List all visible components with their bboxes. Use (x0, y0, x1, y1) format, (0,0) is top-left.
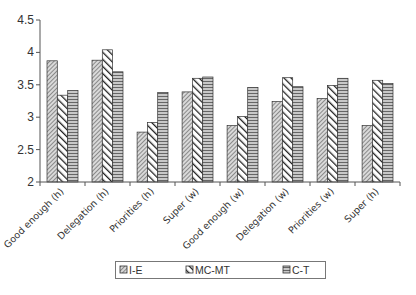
bar-c-t (68, 91, 78, 182)
bar-i-e (182, 92, 192, 182)
bar-mc-mt (282, 78, 292, 182)
legend-label: I-E (129, 264, 142, 276)
bar-mc-mt (192, 78, 202, 182)
y-axis: 22.533.544.5 (17, 13, 40, 189)
bar-mc-mt (102, 50, 112, 182)
y-tick-label: 3 (27, 110, 34, 124)
x-category-label: Priorities (h) (107, 186, 156, 235)
x-axis: Good enough (h)Delegation (h)Priorities … (1, 182, 400, 251)
legend-label: C-T (292, 264, 310, 276)
bar-group (317, 78, 348, 182)
bar-groups (47, 50, 393, 182)
bar-mc-mt (57, 95, 67, 182)
bar-c-t (293, 87, 303, 182)
bar-group (362, 80, 393, 182)
bar-chart: 22.533.544.5 Good enough (h)Delegation (… (0, 0, 416, 295)
bar-i-e (227, 126, 237, 182)
bar-c-t (158, 93, 168, 182)
bar-i-e (47, 61, 57, 182)
bar-c-t (113, 72, 123, 182)
bar-group (47, 61, 78, 182)
y-tick-label: 2.5 (17, 143, 34, 157)
y-tick-label: 4.5 (17, 13, 34, 27)
bar-c-t (248, 87, 258, 182)
bar-group (182, 77, 213, 182)
legend-swatch-icon (120, 266, 127, 273)
x-category-label: Good enough (h) (1, 186, 66, 251)
x-category-label: Super (w) (161, 186, 201, 226)
y-tick-label: 3.5 (17, 78, 34, 92)
bar-group (92, 50, 123, 182)
bar-mc-mt (237, 117, 247, 182)
bar-group (272, 78, 303, 182)
bar-c-t (203, 77, 213, 182)
bar-mc-mt (372, 80, 382, 182)
bar-i-e (137, 132, 147, 182)
x-category-label: Super (h) (342, 186, 381, 225)
bar-i-e (317, 98, 327, 182)
x-category-label: Priorities (w) (286, 186, 336, 236)
legend-label: MC-MT (195, 264, 231, 276)
legend-swatch-icon (186, 266, 193, 273)
legend: I-EMC-MTC-T (116, 262, 326, 279)
y-tick-label: 2 (27, 175, 34, 189)
bar-i-e (92, 60, 102, 182)
chart-canvas: 22.533.544.5 Good enough (h)Delegation (… (0, 0, 416, 295)
bar-c-t (383, 84, 393, 183)
bar-group (137, 93, 168, 182)
bar-c-t (338, 78, 348, 182)
bar-mc-mt (327, 85, 337, 182)
bar-i-e (362, 126, 372, 182)
legend-swatch-icon (283, 266, 290, 273)
bar-i-e (272, 102, 282, 182)
bar-group (227, 87, 258, 182)
y-tick-label: 4 (27, 45, 34, 59)
bar-mc-mt (147, 122, 157, 182)
